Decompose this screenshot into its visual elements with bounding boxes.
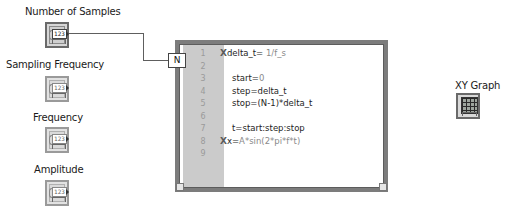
code-line-7[interactable]: t=start:step:stop bbox=[232, 123, 305, 133]
line-number: 3 bbox=[197, 74, 209, 83]
wire-segment[interactable] bbox=[143, 60, 169, 61]
data-type-icon bbox=[52, 144, 66, 149]
sampling-frequency-label: Sampling Frequency bbox=[6, 59, 104, 70]
code-literal: 1/f_s bbox=[266, 48, 286, 58]
mathscript-node[interactable]: 1 2 3 4 5 6 7 8 9 Xdelta_t= 1/f_s start=… bbox=[175, 40, 388, 192]
error-marker-icon[interactable]: X bbox=[220, 48, 227, 58]
frequency-label: Frequency bbox=[33, 112, 83, 123]
numeric-icon: 123 bbox=[52, 187, 67, 197]
amplitude-control[interactable]: 123 bbox=[45, 180, 69, 206]
frequency-control[interactable]: 123 bbox=[45, 127, 69, 153]
number-of-samples-label: Number of Samples bbox=[25, 6, 120, 17]
code-literal: 0 bbox=[259, 73, 264, 83]
wire-segment[interactable] bbox=[69, 33, 144, 34]
output-arrow-icon bbox=[66, 189, 69, 195]
data-type-icon bbox=[52, 197, 66, 202]
line-number: 1 bbox=[197, 49, 209, 58]
xy-graph-indicator[interactable] bbox=[456, 93, 480, 119]
code-text: delta_t= bbox=[227, 48, 266, 58]
code-text: x= bbox=[227, 136, 239, 146]
line-number: 8 bbox=[197, 137, 209, 146]
number-of-samples-control[interactable]: 123 bbox=[45, 22, 69, 48]
code-line-5[interactable]: stop=(N-1)*delta_t bbox=[232, 98, 312, 108]
resize-handle-icon[interactable] bbox=[176, 183, 184, 191]
output-arrow-icon bbox=[66, 136, 69, 142]
data-type-icon bbox=[52, 39, 66, 44]
output-arrow-icon bbox=[66, 31, 69, 37]
data-type-icon bbox=[462, 112, 477, 116]
data-type-icon bbox=[52, 93, 66, 98]
code-text: start= bbox=[232, 73, 259, 83]
error-marker-icon[interactable]: X bbox=[220, 136, 227, 146]
output-arrow-icon bbox=[66, 85, 69, 91]
numeric-icon: 123 bbox=[52, 83, 67, 93]
sampling-frequency-control[interactable]: 123 bbox=[45, 76, 69, 102]
line-number: 9 bbox=[197, 149, 209, 158]
wire-segment[interactable] bbox=[143, 33, 144, 61]
numeric-icon: 123 bbox=[52, 134, 67, 144]
line-number: 5 bbox=[197, 99, 209, 108]
amplitude-label: Amplitude bbox=[34, 164, 83, 175]
resize-handle-icon[interactable] bbox=[379, 183, 387, 191]
line-number: 2 bbox=[197, 62, 209, 71]
line-number: 7 bbox=[197, 124, 209, 133]
line-number: 6 bbox=[197, 112, 209, 121]
numeric-icon: 123 bbox=[52, 29, 67, 39]
line-number: 4 bbox=[197, 87, 209, 96]
xy-graph-label: XY Graph bbox=[455, 80, 500, 91]
code-line-1[interactable]: Xdelta_t= 1/f_s bbox=[228, 48, 286, 58]
code-line-8[interactable]: Xx=A*sin(2*pi*f*t) bbox=[228, 136, 300, 146]
code-line-4[interactable]: step=delta_t bbox=[232, 86, 287, 96]
input-terminal-n[interactable]: N bbox=[168, 53, 186, 68]
code-line-3[interactable]: start=0 bbox=[232, 73, 264, 83]
code-literal: A*sin(2*pi*f*t) bbox=[239, 136, 300, 146]
